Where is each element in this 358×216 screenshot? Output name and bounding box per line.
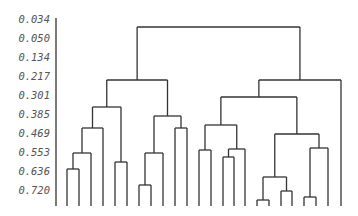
y-axis-tick-labels: 0.034 0.050 0.134 0.217 0.301 0.385 0.46… — [18, 13, 50, 196]
y-tick-label: 0.385 — [18, 108, 50, 120]
y-tick-label: 0.301 — [18, 89, 50, 101]
y-tick-label: 0.553 — [18, 146, 50, 158]
y-tick-label: 0.636 — [18, 165, 50, 177]
dendrogram-tree — [67, 27, 341, 206]
dendrogram-chart: 0.034 0.050 0.134 0.217 0.301 0.385 0.46… — [0, 0, 358, 216]
y-tick-label: 0.050 — [18, 32, 50, 44]
y-tick-label: 0.720 — [18, 184, 50, 196]
y-tick-label: 0.469 — [18, 127, 50, 139]
y-tick-label: 0.034 — [18, 13, 50, 25]
y-tick-label: 0.134 — [18, 51, 50, 63]
y-tick-label: 0.217 — [18, 70, 50, 82]
